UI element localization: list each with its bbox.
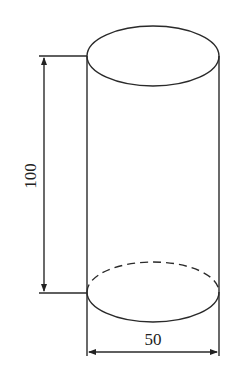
cylinder-diagram: 100 50 [0,0,241,387]
cylinder-top-face [87,26,219,86]
cylinder-bottom-back-edge [87,262,219,292]
cylinder-bottom-front-edge [87,292,219,322]
diameter-label: 50 [145,330,162,349]
height-label: 100 [21,163,40,189]
